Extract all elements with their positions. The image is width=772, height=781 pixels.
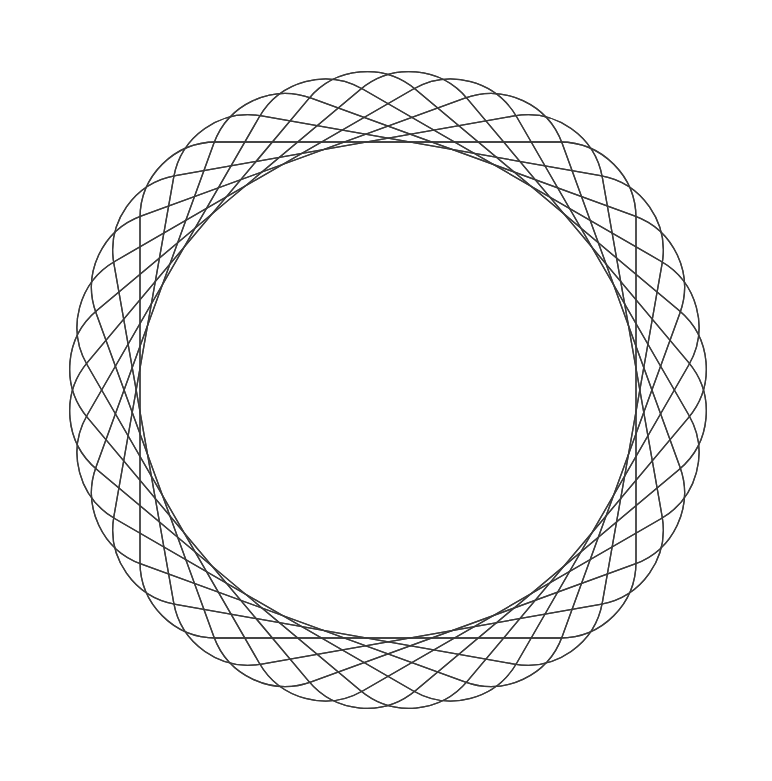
background-rect <box>0 0 772 781</box>
artwork-canvas: Rotated Rounded Square Spirograph A radi… <box>0 0 772 781</box>
spirograph-svg: Rotated Rounded Square Spirograph A radi… <box>0 0 772 781</box>
